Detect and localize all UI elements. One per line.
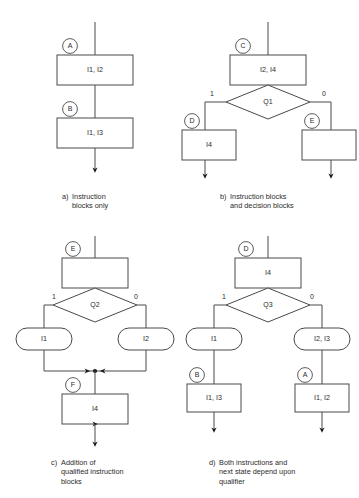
state-circle-a1-label: A bbox=[68, 42, 73, 49]
caption-a-line2: blocks only bbox=[72, 201, 108, 210]
branch-label-b-false: 0 bbox=[322, 90, 326, 97]
state-circle-d3-label: A bbox=[303, 371, 308, 378]
caption-a-line1: Instruction bbox=[72, 192, 106, 201]
branch-label-c-true: 1 bbox=[52, 293, 56, 300]
decision-block-c-label: Q2 bbox=[90, 301, 99, 309]
instruction-block-d1-label: I4 bbox=[265, 268, 271, 277]
caption-c-line1: Addition of bbox=[61, 458, 95, 467]
branch-label-c-false: 0 bbox=[134, 293, 138, 300]
figure-canvas: I1, I2 A I1, I3 B I2, I4 C Q1 1 0 I4 D E bbox=[0, 0, 359, 498]
instruction-block-c2-label: I4 bbox=[92, 404, 98, 413]
caption-panel-a: a)Instructionblocks only bbox=[58, 182, 108, 211]
caption-panel-c: c)Addition ofqualified instructionblocks bbox=[47, 448, 124, 486]
caption-d-line1: Both instructions and bbox=[219, 458, 287, 467]
instruction-block-a1-label: I1, I2 bbox=[87, 65, 103, 74]
panel-b: I2, I4 C Q1 1 0 I4 D E bbox=[182, 22, 356, 176]
state-circle-c1-label: E bbox=[71, 245, 76, 252]
qualified-instruction-block-c-right-label: I2 bbox=[143, 334, 149, 343]
panel-c: E Q2 1 0 I1 I2 I4 F bbox=[16, 236, 174, 424]
state-circle-d1-label: D bbox=[243, 245, 248, 252]
caption-d-tag: d) bbox=[209, 458, 219, 468]
decision-block-b-label: Q1 bbox=[263, 98, 272, 106]
flowchart-diagram: I1, I2 A I1, I3 B I2, I4 C Q1 1 0 I4 D E bbox=[0, 0, 359, 498]
caption-d-line2: next state depend upon bbox=[219, 467, 295, 476]
qualified-instruction-block-c-left-label: I1 bbox=[41, 334, 47, 343]
instruction-block-d3-label: I1, I2 bbox=[314, 393, 330, 402]
panel-a: I1, I2 A I1, I3 B bbox=[57, 22, 133, 170]
caption-b-tag: b) bbox=[220, 192, 230, 202]
instruction-block-b1-label: I2, I4 bbox=[260, 65, 276, 74]
caption-d-line3: qualifier bbox=[219, 477, 245, 486]
caption-panel-d: d)Both instructions andnext state depend… bbox=[205, 448, 295, 486]
caption-c-tag: c) bbox=[51, 458, 61, 468]
panel-d: I4 D Q3 1 0 I1 I2, I3 I1, I3 B I1, I2 A bbox=[186, 236, 350, 430]
instruction-block-c1[interactable] bbox=[62, 258, 128, 288]
branch-label-b-true: 1 bbox=[210, 90, 214, 97]
decision-block-d-label: Q3 bbox=[263, 301, 272, 309]
caption-c-line2: qualified instruction bbox=[61, 467, 123, 476]
caption-panel-b: b)Instruction blocksand decision blocks bbox=[216, 182, 294, 211]
branch-label-d-false: 0 bbox=[310, 293, 314, 300]
instruction-block-d2-label: I1, I3 bbox=[206, 393, 222, 402]
caption-c-line3: blocks bbox=[61, 477, 82, 486]
qualified-instruction-block-d-right-label: I2, I3 bbox=[314, 334, 330, 343]
caption-b-line1: Instruction blocks bbox=[230, 192, 286, 201]
caption-a-tag: a) bbox=[62, 192, 72, 202]
caption-b-line2: and decision blocks bbox=[230, 201, 294, 210]
state-circle-d2-label: B bbox=[195, 371, 200, 378]
state-circle-a2-label: B bbox=[68, 105, 73, 112]
state-circle-c2-label: F bbox=[71, 381, 75, 388]
instruction-block-b3[interactable] bbox=[302, 130, 356, 160]
instruction-block-a2-label: I1, I3 bbox=[87, 128, 103, 137]
state-circle-b2-label: D bbox=[189, 117, 194, 124]
state-circle-b1-label: C bbox=[240, 42, 245, 49]
instruction-block-b2-label: I4 bbox=[206, 140, 212, 149]
qualified-instruction-block-d-left-label: I1 bbox=[211, 334, 217, 343]
branch-label-d-true: 1 bbox=[222, 293, 226, 300]
state-circle-b3-label: E bbox=[310, 117, 315, 124]
